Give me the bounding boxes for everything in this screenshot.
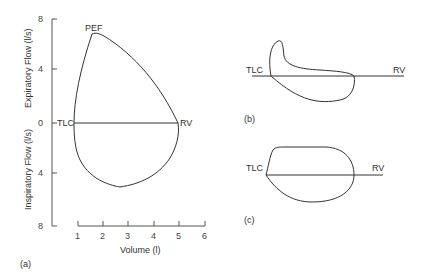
x-tick-6: 6	[202, 231, 207, 241]
y-tick-4-top: 4	[38, 64, 43, 74]
y-tick-0: 0	[38, 118, 43, 128]
x-tick-5: 5	[176, 231, 181, 241]
loop-b	[270, 41, 355, 102]
rv-label-b: RV	[393, 65, 405, 75]
panel-label-c: (c)	[244, 215, 255, 225]
x-tick-3: 3	[125, 231, 130, 241]
tlc-label-c: TLC	[246, 163, 264, 173]
tlc-label-b: TLC	[246, 65, 264, 75]
y-tick-4-bottom: 4	[38, 168, 43, 178]
flow-volume-figure: 8 4 0 4 8 Expiratory Flow (l/s) Inspirat…	[0, 0, 421, 275]
y-tick-8-top: 8	[38, 14, 43, 24]
panel-label-a: (a)	[20, 259, 31, 269]
y-label-inspiratory: Inspiratory Flow (l/s)	[23, 129, 33, 210]
tlc-label-a: TLC	[57, 118, 75, 128]
x-label: Volume (l)	[120, 245, 161, 255]
pef-label: PEF	[85, 23, 103, 33]
inspiratory-curve	[74, 123, 179, 187]
expiratory-curve	[74, 33, 178, 123]
panel-c: TLC RV (c)	[244, 147, 384, 225]
y-tick-8-bottom: 8	[38, 221, 43, 231]
x-tick-4: 4	[151, 231, 156, 241]
panel-a: 8 4 0 4 8 Expiratory Flow (l/s) Inspirat…	[20, 14, 207, 269]
rv-label-c: RV	[372, 163, 384, 173]
panel-b: TLC RV (b)	[244, 41, 405, 124]
rv-label-a: RV	[180, 118, 192, 128]
y-label-expiratory: Expiratory Flow (l/s)	[23, 28, 33, 108]
x-tick-2: 2	[100, 231, 105, 241]
x-tick-1: 1	[75, 231, 80, 241]
panel-label-b: (b)	[244, 114, 255, 124]
